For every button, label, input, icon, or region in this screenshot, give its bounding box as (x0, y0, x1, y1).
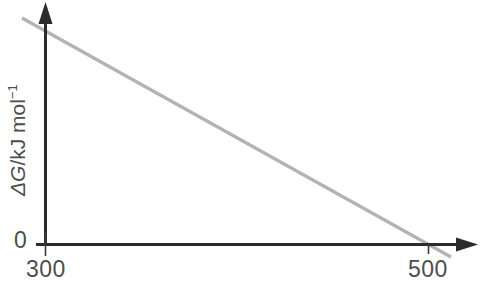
chart-figure: ΔG/kJ mol−1 0 300 500 (0, 0, 487, 287)
x-axis-tick-label-500: 500 (408, 258, 448, 281)
x-axis-group (36, 238, 478, 252)
y-axis-group (39, 2, 53, 246)
y-axis-title-units: /kJ mol (6, 99, 29, 166)
y-axis-arrowhead-icon (39, 2, 53, 24)
x-axis-arrowhead-icon (456, 238, 478, 252)
data-series-group (22, 18, 451, 257)
y-axis-title-symbol: G (6, 166, 29, 182)
y-axis-title-delta: Δ (6, 182, 29, 196)
data-line-gibbs-energy (22, 18, 451, 257)
plot-canvas (0, 0, 487, 287)
y-axis-tick-label-0: 0 (14, 229, 27, 252)
y-axis-title-exponent: −1 (5, 84, 20, 99)
y-axis-title: ΔG/kJ mol−1 (5, 16, 31, 196)
x-axis-tick-label-300: 300 (26, 258, 66, 281)
